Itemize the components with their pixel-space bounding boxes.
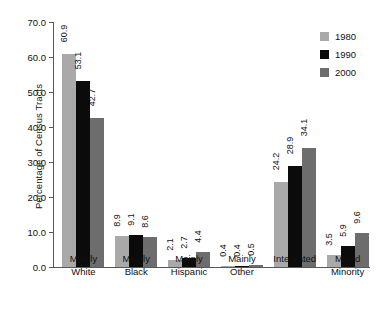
legend: 1980 1990 2000 — [320, 29, 356, 83]
x-axis-label-line: Mainly — [57, 253, 110, 266]
y-axis-tick: 20.0 — [53, 197, 54, 198]
bar-mainly-white-2000: 42.7 — [90, 118, 104, 267]
bar-value-label: 9.6 — [353, 212, 362, 225]
bar-group: 60.953.142.7 — [62, 22, 104, 267]
bar-value-label: 28.9 — [286, 137, 295, 155]
y-axis-tick-label: 30.0 — [28, 157, 47, 168]
bar-value-label: 53.1 — [74, 52, 83, 70]
y-axis-line — [53, 22, 54, 267]
legend-item-2000: 2000 — [320, 65, 356, 80]
bar-value-label: 4.4 — [194, 230, 203, 243]
bar-integrated-1990: 28.9 — [288, 166, 302, 267]
bar-value-label: 9.1 — [127, 213, 136, 226]
y-axis-tick-label: 60.0 — [28, 52, 47, 63]
bar-value-label: 2.7 — [180, 236, 189, 249]
y-axis-tick-mark — [49, 162, 53, 163]
y-axis-tick-mark — [49, 57, 53, 58]
x-axis-label-line: Integrated — [268, 253, 321, 266]
bar-group: 2.12.74.4 — [168, 22, 210, 267]
legend-swatch-icon-1990 — [320, 50, 329, 59]
y-axis-tick-mark — [49, 197, 53, 198]
x-axis-label-line: Hispanic — [163, 266, 216, 279]
bar-integrated-2000: 34.1 — [302, 148, 316, 267]
y-axis-tick: 50.0 — [53, 92, 54, 93]
x-axis-label-line: Mixed — [321, 253, 374, 266]
y-axis-tick-label: 20.0 — [28, 192, 47, 203]
bar-value-label: 42.7 — [88, 88, 97, 106]
legend-label-1990: 1990 — [335, 49, 356, 60]
x-axis-label-integrated: Integrated — [268, 253, 321, 266]
bar-value-label: 3.5 — [325, 233, 334, 246]
bar-group: 8.99.18.6 — [115, 22, 157, 267]
bar-value-label: 8.9 — [113, 214, 122, 227]
bar-value-label: 60.9 — [60, 25, 69, 43]
legend-item-1990: 1990 — [320, 47, 356, 62]
x-axis-label-line: Other — [216, 266, 269, 279]
bar-mainly-white-1990: 53.1 — [76, 81, 90, 267]
bar-value-label: 2.1 — [166, 238, 175, 251]
bar-mainly-white-1980: 60.9 — [62, 54, 76, 267]
y-axis-tick-label: 70.0 — [28, 17, 47, 28]
y-axis-tick-label: 40.0 — [28, 122, 47, 133]
x-axis-label-mainly-black: MainlyBlack — [110, 253, 163, 278]
bar-value-label: 8.6 — [141, 215, 150, 228]
y-axis-tick-mark — [49, 22, 53, 23]
x-axis-label-mainly-other: MainlyOther — [216, 253, 269, 278]
x-axis-label-line: Mainly — [216, 253, 269, 266]
y-axis-tick-label: 50.0 — [28, 87, 47, 98]
bar-group: 24.228.934.1 — [274, 22, 316, 267]
y-axis-tick-mark — [49, 127, 53, 128]
y-axis-tick: 10.0 — [53, 232, 54, 233]
x-axis-label-mainly-hispanic: MainlyHispanic — [163, 253, 216, 278]
y-axis-tick-label: 0.0 — [33, 262, 46, 273]
legend-label-2000: 2000 — [335, 67, 356, 78]
bar-value-label: 24.2 — [272, 153, 281, 171]
x-axis-label-line: Black — [110, 266, 163, 279]
bar-value-label: 5.9 — [339, 225, 348, 238]
y-axis-tick-mark — [49, 267, 53, 268]
y-axis-tick-mark — [49, 232, 53, 233]
x-axis-label-line: Minority — [321, 266, 374, 279]
bar-group: 0.40.40.5 — [221, 22, 263, 267]
y-axis-tick: 60.0 — [53, 57, 54, 58]
y-axis-tick: 40.0 — [53, 127, 54, 128]
legend-swatch-icon-2000 — [320, 68, 329, 77]
bar-value-label: 34.1 — [300, 118, 309, 136]
y-axis-tick-mark — [49, 92, 53, 93]
x-axis-label-line: Mainly — [163, 253, 216, 266]
y-axis-tick: 30.0 — [53, 162, 54, 163]
bar-chart: Percentage of Census Tracts 0.010.020.03… — [0, 0, 390, 316]
y-axis-tick: 70.0 — [53, 22, 54, 23]
x-axis-label-mixed-minority: MixedMinority — [321, 253, 374, 278]
legend-item-1980: 1980 — [320, 29, 356, 44]
legend-swatch-icon-1980 — [320, 32, 329, 41]
y-axis-tick-label: 10.0 — [28, 227, 47, 238]
x-axis-label-mainly-white: MainlyWhite — [57, 253, 110, 278]
y-axis-tick: 0.0 — [53, 267, 54, 268]
x-axis-label-line: Mainly — [110, 253, 163, 266]
y-axis-title: Percentage of Census Tracts — [33, 47, 44, 247]
legend-label-1980: 1980 — [335, 31, 356, 42]
x-axis-label-line: White — [57, 266, 110, 279]
